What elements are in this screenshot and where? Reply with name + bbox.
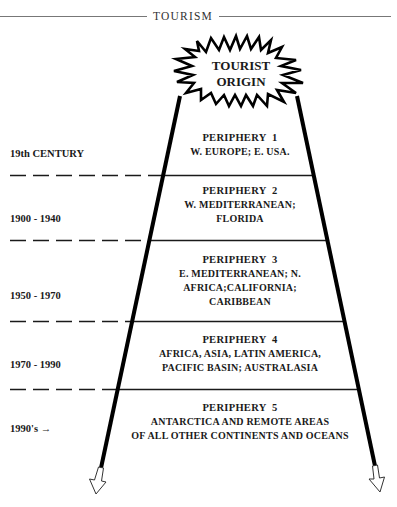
periphery-2-title: PERIPHERY 2 [202, 185, 277, 196]
right-expansion-line [297, 96, 375, 466]
left-arrow-icon [90, 467, 107, 494]
periphery-3-title: PERIPHERY 3 [202, 254, 277, 265]
periphery-5-title: PERIPHERY 5 [202, 402, 277, 413]
tourism-periphery-diagram: TOURISM TOURIST ORIGIN 19th CENTURY 1900… [0, 0, 397, 507]
header: TOURISM [0, 10, 391, 22]
periphery-2: PERIPHERY 2 W. MEDITERRANEAN; FLORIDA [184, 185, 295, 224]
origin-label-line1: TOURIST [212, 58, 271, 73]
periphery-3: PERIPHERY 3 E. MEDITERRANEAN; N. AFRICA;… [179, 254, 301, 307]
periphery-3-line-3: CARIBBEAN [209, 296, 271, 307]
periphery-1-title: PERIPHERY 1 [202, 132, 277, 143]
periphery-5-line-2: OF ALL OTHER CONTINENTS AND OCEANS [131, 430, 349, 441]
periphery-3-line-1: E. MEDITERRANEAN; N. [179, 268, 301, 279]
era-labels: 19th CENTURY 1900 - 1940 1950 - 1970 197… [10, 148, 84, 434]
periphery-3-line-2: AFRICA;CALIFORNIA; [183, 282, 297, 293]
periphery-4-title: PERIPHERY 4 [202, 334, 278, 345]
right-arrow-icon [369, 465, 385, 492]
era-label-4: 1970 - 1990 [10, 359, 61, 370]
tourist-origin-burst: TOURIST ORIGIN [174, 36, 303, 106]
periphery-5: PERIPHERY 5 ANTARCTICA AND REMOTE AREAS … [131, 402, 349, 441]
era-label-5: 1990's → [10, 423, 51, 434]
left-expansion-line [101, 96, 180, 468]
origin-label-line2: ORIGIN [216, 74, 266, 89]
header-title: TOURISM [153, 10, 213, 22]
periphery-4: PERIPHERY 4 AFRICA, ASIA, LATIN AMERICA,… [159, 334, 321, 373]
era-label-3: 1950 - 1970 [10, 290, 61, 301]
periphery-4-line-1: AFRICA, ASIA, LATIN AMERICA, [159, 348, 321, 359]
periphery-1-line-1: W. EUROPE; E. USA. [190, 146, 290, 157]
periphery-1: PERIPHERY 1 W. EUROPE; E. USA. [190, 132, 290, 157]
periphery-2-line-2: FLORIDA [216, 213, 264, 224]
era-label-1: 19th CENTURY [10, 148, 84, 159]
periphery-4-line-2: PACIFIC BASIN; AUSTRALASIA [162, 362, 319, 373]
periphery-5-line-1: ANTARCTICA AND REMOTE AREAS [151, 416, 330, 427]
periphery-2-line-1: W. MEDITERRANEAN; [184, 199, 295, 210]
era-label-2: 1900 - 1940 [10, 213, 61, 224]
